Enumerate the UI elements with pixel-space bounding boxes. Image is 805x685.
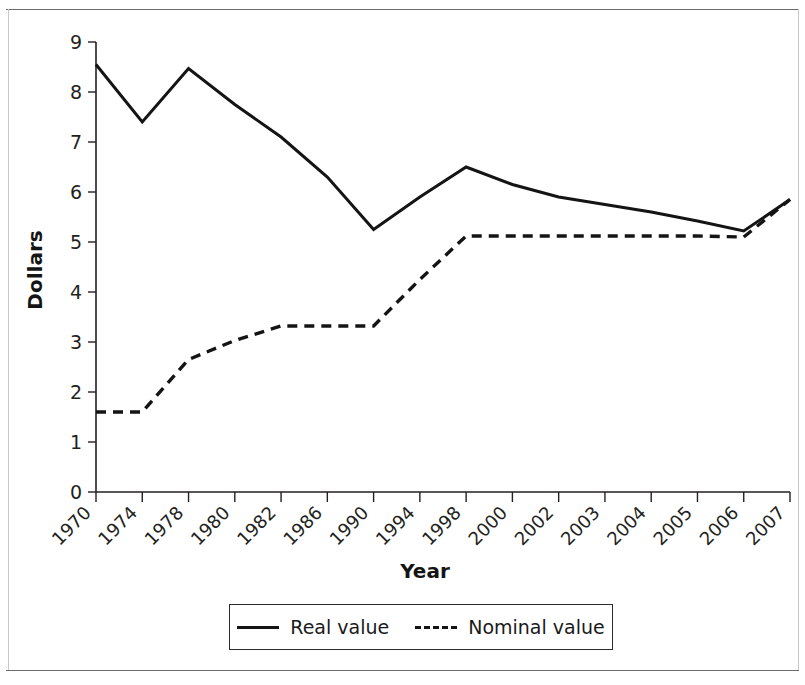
y-tick-label: 4: [70, 281, 82, 303]
x-tick-label: 1974: [94, 502, 141, 549]
y-tick-label: 9: [70, 31, 82, 53]
line-chart-plot: 0123456789 19701974197819801982198619901…: [0, 0, 805, 685]
y-tick-label: 2: [70, 381, 82, 403]
x-tick-label: 1980: [186, 502, 233, 549]
x-axis: 1970197419781980198219861990199419982000…: [48, 492, 790, 549]
legend-item-nominal-value: Nominal value: [415, 616, 605, 638]
x-tick-label: 2002: [510, 502, 557, 549]
x-tick-label: 2006: [695, 502, 742, 549]
x-tick-label: 1990: [325, 502, 372, 549]
data-series-group: [96, 65, 790, 413]
y-axis: 0123456789: [70, 31, 96, 503]
x-tick-label: 1986: [279, 502, 326, 549]
legend-swatch-dashed-line-icon: [415, 626, 457, 629]
chart-legend: Real value Nominal value: [229, 604, 613, 650]
x-tick-label: 1970: [48, 502, 95, 549]
y-tick-label: 6: [70, 181, 82, 203]
x-axis-title: Year: [399, 559, 450, 583]
legend-label-real-value: Real value: [290, 616, 389, 638]
legend-label-nominal-value: Nominal value: [468, 616, 605, 638]
series-line-real-value: [96, 65, 790, 232]
figure-container: 0123456789 19701974197819801982198619901…: [0, 0, 805, 685]
y-tick-label: 0: [70, 481, 82, 503]
y-tick-label: 7: [70, 131, 82, 153]
x-tick-label: 2005: [649, 502, 696, 549]
y-tick-label: 8: [70, 81, 82, 103]
y-tick-label: 1: [70, 431, 82, 453]
x-tick-label: 1978: [140, 502, 187, 549]
y-tick-label: 5: [70, 231, 82, 253]
x-tick-label: 2000: [464, 502, 511, 549]
x-tick-label: 2004: [603, 502, 650, 549]
legend-item-real-value: Real value: [237, 616, 389, 638]
x-tick-label: 1998: [418, 502, 465, 549]
x-tick-label: 1994: [371, 502, 418, 549]
y-axis-title: Dollars: [23, 230, 47, 309]
x-tick-label: 2007: [742, 502, 789, 549]
y-tick-label: 3: [70, 331, 82, 353]
x-tick-label: 1982: [233, 502, 280, 549]
legend-swatch-solid-line-icon: [237, 626, 279, 629]
series-line-nominal-value: [96, 200, 790, 413]
x-tick-label: 2003: [557, 502, 604, 549]
